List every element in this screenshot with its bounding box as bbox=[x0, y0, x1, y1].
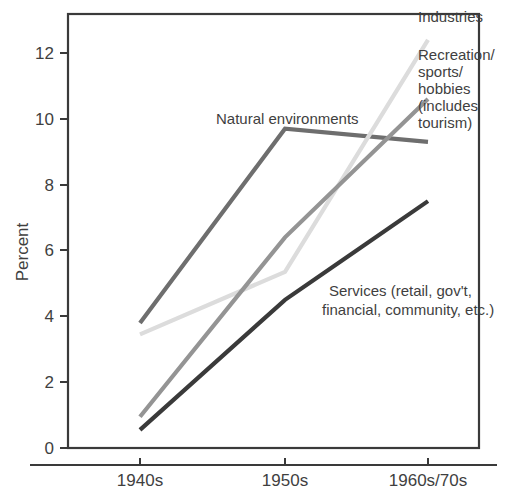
y-tick-label-10: 10 bbox=[35, 110, 54, 129]
chart-canvas: 12 10 8 6 4 2 0 Percent 1940s 1950s 1960… bbox=[0, 0, 513, 495]
y-tick-label-2: 2 bbox=[45, 373, 54, 392]
annotation-recreation-line-2: hobbies bbox=[418, 80, 471, 97]
y-tick-label-6: 6 bbox=[45, 241, 54, 260]
x-tick-label-1940s: 1940s bbox=[117, 471, 163, 490]
y-tick-label-0: 0 bbox=[45, 439, 54, 458]
y-tick-label-4: 4 bbox=[45, 307, 54, 326]
annotation-recreation: Recreation/ sports/ hobbies (includes to… bbox=[418, 46, 496, 131]
y-tick-label-8: 8 bbox=[45, 176, 54, 195]
annotation-recreation-line-3: (includes bbox=[418, 97, 478, 114]
annotation-natural-environments: Natural environments bbox=[216, 110, 359, 127]
annotation-industries-line-0: Industries bbox=[418, 8, 483, 25]
x-tick-label-1960s-70s: 1960s/70s bbox=[389, 471, 467, 490]
x-tick-label-1950s: 1950s bbox=[262, 471, 308, 490]
annotation-industries: Industries bbox=[418, 8, 483, 25]
annotation-natural-environments-line-0: Natural environments bbox=[216, 110, 359, 127]
annotation-recreation-line-4: tourism) bbox=[418, 114, 472, 131]
y-axis: 12 10 8 6 4 2 0 Percent bbox=[13, 44, 68, 458]
line-chart: 12 10 8 6 4 2 0 Percent 1940s 1950s 1960… bbox=[0, 0, 513, 495]
annotation-recreation-line-0: Recreation/ bbox=[418, 46, 496, 63]
y-tick-label-12: 12 bbox=[35, 44, 54, 63]
x-axis: 1940s 1950s 1960s/70s bbox=[30, 458, 497, 490]
annotation-services-line-1: financial, community, etc.) bbox=[322, 301, 494, 318]
y-axis-title: Percent bbox=[13, 222, 32, 281]
annotation-services-line-0: Services (retail, gov't, bbox=[329, 282, 472, 299]
annotation-recreation-line-1: sports/ bbox=[418, 63, 464, 80]
